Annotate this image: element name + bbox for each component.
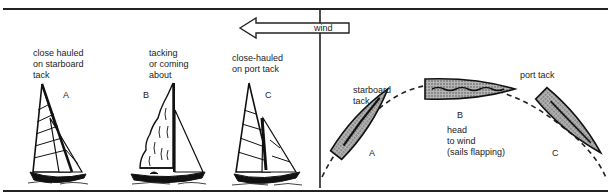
letter-boat-b: B [143,90,149,101]
sailboat-a-icon [28,84,88,184]
diagram-canvas [0,0,610,195]
caption-boat-b: tacking or coming about [149,48,189,81]
caption-boat-c: close-hauled on port tack [232,53,283,75]
head-to-wind-label: head to wind (sails flapping) [447,125,505,158]
hull-b-letter: B [457,110,463,121]
hull-c-letter: C [552,148,559,159]
port-tack-label: port tack [520,70,555,81]
hull-c-icon [535,87,607,159]
hull-a-letter: A [369,148,375,159]
starboard-tack-label: starboard tack [353,85,391,107]
letter-boat-c: C [265,90,272,101]
caption-boat-a: close hauled on starboard tack [33,48,84,81]
hull-b-icon [425,79,515,100]
letter-boat-a: A [63,90,69,101]
wind-label: wind [314,23,333,34]
